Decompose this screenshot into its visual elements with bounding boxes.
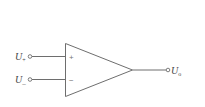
op-amp-diagram: U+ + U_ − Uo xyxy=(0,0,205,107)
op-amp-triangle xyxy=(66,44,133,97)
plus-sign: + xyxy=(69,53,74,62)
inverting-input-terminal xyxy=(28,78,32,82)
output: Uo xyxy=(133,65,182,77)
inverting-input-label: U_ xyxy=(15,74,26,86)
minus-sign: − xyxy=(69,76,74,85)
output-label: Uo xyxy=(171,65,181,77)
non-inverting-input-terminal xyxy=(28,55,32,59)
output-terminal xyxy=(166,68,170,72)
non-inverting-input-label: U+ xyxy=(15,51,26,63)
